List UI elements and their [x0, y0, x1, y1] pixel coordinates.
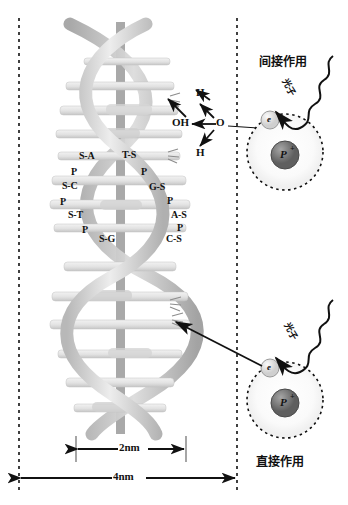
electron-label-lower: e [267, 362, 271, 372]
direct-action-label: 直接作用 [256, 452, 304, 469]
base-label-C-S: C-S [166, 233, 182, 244]
nucleus-charge-lower: + [290, 392, 295, 401]
nucleus-label-lower: P [280, 396, 287, 408]
hydroxyl-radical-label: OH [172, 116, 189, 128]
nucleus-label-upper: P [280, 148, 287, 160]
base-label-S-C: S-C [62, 180, 78, 191]
hydrogen-label-bottom: H [196, 146, 205, 158]
base-label-P-left-1: P [71, 166, 77, 177]
indirect-action-label: 间接作用 [259, 52, 307, 69]
base-label-P-right-1: P [141, 166, 147, 177]
nucleus-charge-upper: + [290, 144, 295, 153]
base-label-P-left-3: P [82, 224, 88, 235]
diagram-svg [0, 0, 348, 505]
figure-canvas: S-A P S-C P S-T P S-G T-S P G-S P A-S P … [0, 0, 348, 505]
base-label-A-S: A-S [171, 209, 187, 220]
base-label-P-right-3: P [177, 222, 183, 233]
electron-label-upper: e [267, 114, 271, 124]
base-label-T-S: T-S [122, 149, 136, 160]
oxygen-label: O [216, 116, 225, 128]
base-label-P-right-2: P [167, 195, 173, 206]
base-label-S-A: S-A [79, 150, 95, 161]
base-label-G-S: G-S [149, 181, 165, 192]
arrow-e-to-O [228, 126, 258, 128]
base-label-S-T: S-T [68, 209, 83, 220]
scalebar-label-4nm: 4nm [113, 470, 134, 482]
hydrogen-label-top: H [196, 86, 205, 98]
base-label-P-left-2: P [60, 196, 66, 207]
arrow-O-to-H-bottom [200, 130, 214, 146]
base-label-S-G: S-G [99, 233, 115, 244]
arrow-O-to-H-top [200, 104, 214, 118]
scalebar-label-2nm: 2nm [119, 441, 140, 453]
